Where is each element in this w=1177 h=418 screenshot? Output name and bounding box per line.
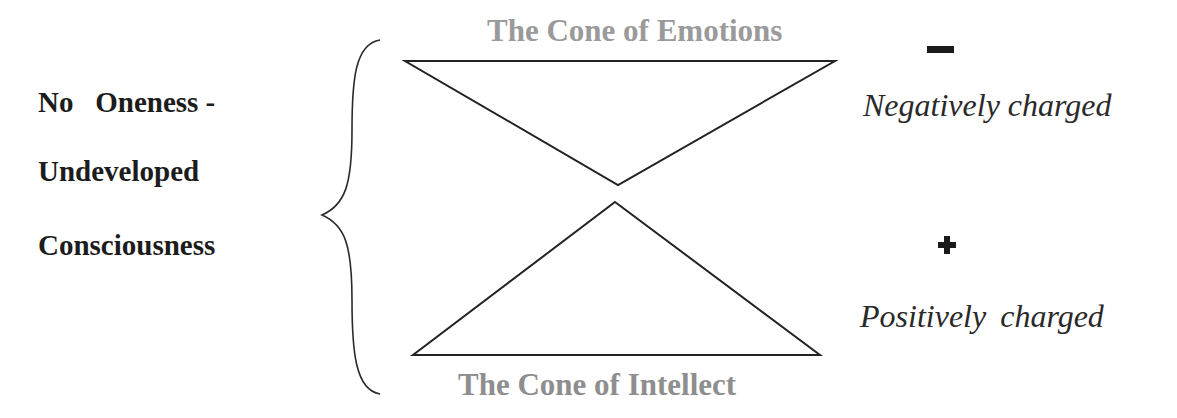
cone-of-emotions-title: The Cone of Emotions — [487, 15, 782, 46]
cone-diagram: No Oneness - Undeveloped Consciousness T… — [0, 0, 1177, 418]
negatively-charged-label: Negatively charged — [863, 89, 1112, 121]
cone-of-intellect-title: The Cone of Intellect — [458, 369, 736, 400]
cone-of-emotions-shape — [405, 61, 835, 185]
diagram-shapes — [0, 0, 1177, 418]
positively-charged-label: Positively charged — [860, 300, 1104, 332]
minus-icon — [927, 46, 954, 53]
plus-icon — [938, 236, 956, 254]
cone-of-intellect-shape — [413, 202, 820, 355]
curly-brace-icon — [322, 40, 380, 394]
